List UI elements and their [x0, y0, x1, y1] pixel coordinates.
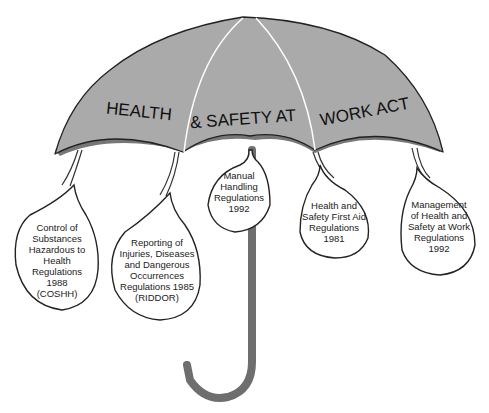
label-line: Safety at Work	[400, 221, 478, 232]
label-line: Handling	[205, 181, 273, 192]
label-line: Regulations	[400, 232, 478, 243]
label-line: 1988	[22, 277, 92, 288]
label-line: Occurrences	[112, 270, 202, 281]
label-line: (COSHH)	[22, 288, 92, 299]
label-line: Regulations 1985	[112, 281, 202, 292]
label-line: Regulations	[295, 222, 373, 233]
label-riddor: Reporting of Injuries, Diseases and Dang…	[112, 237, 202, 303]
label-first-aid: Health and Safety First Aid Regulations …	[295, 200, 373, 244]
label-line: Regulations	[205, 192, 273, 203]
label-management: Management of Health and Safety at Work …	[400, 199, 478, 254]
label-line: Substances	[22, 233, 92, 244]
label-line: Manual	[205, 170, 273, 181]
label-line: Management	[400, 199, 478, 210]
label-line: Regulations	[22, 266, 92, 277]
label-line: and Dangerous	[112, 259, 202, 270]
label-line: Injuries, Diseases	[112, 248, 202, 259]
label-line: Control of	[22, 222, 92, 233]
label-line: Hazardous to	[22, 244, 92, 255]
label-line: Health and	[295, 200, 373, 211]
label-coshh: Control of Substances Hazardous to Healt…	[22, 222, 92, 299]
label-line: 1992	[205, 203, 273, 214]
label-line: 1981	[295, 233, 373, 244]
label-line: (RIDDOR)	[112, 292, 202, 303]
label-line: 1992	[400, 243, 478, 254]
label-line: Health	[22, 255, 92, 266]
label-line: Safety First Aid	[295, 211, 373, 222]
label-line: of Health and	[400, 210, 478, 221]
label-manual-handling: Manual Handling Regulations 1992	[205, 170, 273, 214]
label-line: Reporting of	[112, 237, 202, 248]
umbrella-canopy	[55, 17, 443, 154]
